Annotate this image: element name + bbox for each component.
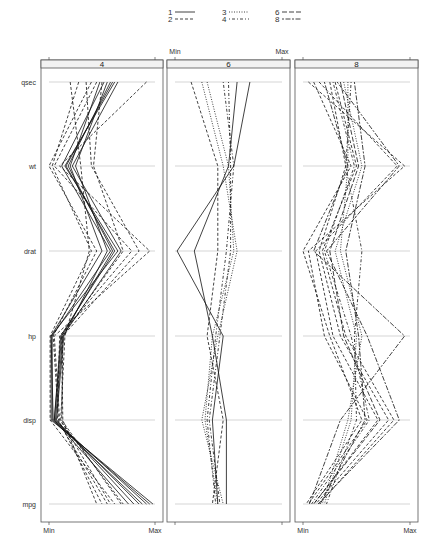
legend-label: 4 bbox=[222, 15, 227, 24]
parallel-plot: 123468 MinMax 468 qsecwtdrathpdispmpg Mi… bbox=[0, 0, 440, 550]
axis-max-label: Max bbox=[148, 527, 162, 534]
axis-min-label: Min bbox=[43, 527, 54, 534]
panel-6: 6 bbox=[167, 60, 290, 522]
variable-label-mpg: mpg bbox=[22, 501, 36, 509]
axis-max-label: Max bbox=[403, 527, 417, 534]
panels: 468 bbox=[41, 60, 418, 522]
panel-strip-label: 4 bbox=[100, 60, 105, 69]
axis-max-label: Max bbox=[275, 48, 289, 55]
panel-strip-label: 8 bbox=[354, 60, 359, 69]
axis-min-label: Min bbox=[169, 48, 180, 55]
variable-label-wt: wt bbox=[28, 163, 36, 170]
top-axis: MinMax bbox=[49, 48, 410, 60]
bottom-axis: MinMaxMinMax bbox=[43, 522, 417, 534]
legend-label: 8 bbox=[275, 15, 280, 24]
legend-label: 2 bbox=[168, 15, 173, 24]
variable-labels: qsecwtdrathpdispmpg bbox=[21, 79, 36, 509]
panel-border bbox=[167, 60, 290, 522]
panel-strip-label: 6 bbox=[226, 60, 231, 69]
variable-label-disp: disp bbox=[23, 417, 36, 425]
panel-border bbox=[41, 60, 163, 522]
variable-label-drat: drat bbox=[24, 248, 36, 255]
panel-8: 8 bbox=[295, 60, 418, 522]
panel-4: 4 bbox=[41, 60, 163, 522]
legend: 123468 bbox=[168, 8, 302, 24]
axis-min-label: Min bbox=[297, 527, 308, 534]
variable-label-qsec: qsec bbox=[21, 79, 36, 87]
variable-label-hp: hp bbox=[28, 333, 36, 341]
